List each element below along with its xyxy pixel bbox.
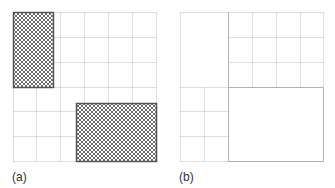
panel-b-grid	[181, 13, 324, 162]
panel-a-grid	[14, 13, 157, 162]
diagram-canvas	[0, 0, 335, 188]
panel-a-label: (a)	[12, 170, 27, 184]
hatched-region-top-left	[14, 13, 54, 88]
hatched-region-bottom-right	[77, 104, 157, 162]
panel-b-label: (b)	[179, 170, 194, 184]
